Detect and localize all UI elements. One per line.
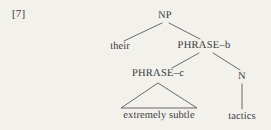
tree-edge-phrase-b-to-n [213,53,240,70]
tree-edge-np-to-their [124,23,162,41]
tree-node-tactics: tactics [228,112,256,123]
tree-edge-np-to-phrase-b [169,23,200,39]
syntax-tree-figure: [7] NPtheirPHRASE–bPHRASE–cNextremely su… [0,0,271,130]
tree-edge-phrase-b-to-phrase-c [172,53,199,68]
tree-node-phrase-b: PHRASE–b [178,41,231,52]
tree-node-n: N [238,72,246,83]
tree-node-phrase-c: PHRASE–c [132,69,184,80]
tree-node-extremely-subtle: extremely subtle [123,111,194,122]
phrase-c-triangle-icon [121,83,197,108]
tree-node-their: their [110,42,130,53]
tree-node-np: NP [158,11,172,22]
